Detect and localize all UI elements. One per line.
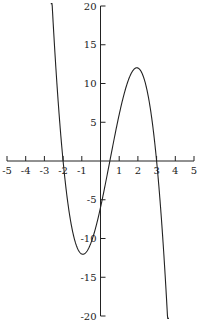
axes (7, 6, 194, 316)
x-tick-label: 1 (116, 165, 122, 176)
y-tick-label: 10 (84, 78, 97, 89)
function-plot: -5-4-3-2-112345-20-15-10-55101520 (0, 0, 200, 326)
x-tick-label: -2 (58, 165, 68, 176)
y-tick-label: -5 (87, 194, 97, 205)
x-tick-label: 5 (191, 165, 197, 176)
y-tick-label: -20 (80, 311, 96, 322)
x-tick-label: -3 (40, 165, 50, 176)
y-tick-label: 15 (84, 39, 97, 50)
x-tick-label: -1 (77, 165, 87, 176)
x-tick-label: 4 (172, 165, 178, 176)
y-tick-label: 20 (84, 1, 97, 12)
x-tick-label: -4 (21, 165, 31, 176)
y-tick-label: 5 (90, 117, 96, 128)
x-tick-label: -5 (2, 165, 12, 176)
x-tick-label: 2 (135, 165, 141, 176)
y-tick-label: -15 (80, 272, 96, 283)
